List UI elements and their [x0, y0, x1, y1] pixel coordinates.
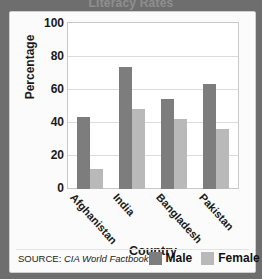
bar-group-bangladesh	[161, 22, 187, 189]
chart-footer: SOURCE: CIA World Factbook Male Female	[10, 249, 255, 267]
source-note: SOURCE: CIA World Factbook	[18, 253, 149, 264]
legend-item-female: Female	[201, 251, 259, 265]
bar-bangladesh-female	[174, 119, 187, 189]
chart-legend: Male Female	[149, 251, 260, 265]
bar-bangladesh-male	[161, 99, 174, 189]
legend-label-female: Female	[218, 251, 259, 265]
x-axis-ticks: Afghanistan India Bangladesh Pakistan	[67, 191, 239, 247]
source-name: CIA World Factbook	[64, 253, 149, 264]
y-tick-80: 80	[30, 49, 64, 63]
bar-pakistan-female	[216, 129, 229, 189]
legend-swatch-male	[149, 252, 162, 265]
y-axis-ticks: 100 80 60 40 20 0	[24, 22, 64, 189]
bar-india-male	[119, 67, 132, 189]
plot-wrapper	[67, 22, 239, 189]
bar-group-pakistan	[203, 22, 229, 189]
bar-group-afghanistan	[77, 22, 103, 189]
chart-card: Percentage 100 80 60 40 20 0	[9, 11, 256, 273]
bar-pakistan-male	[203, 84, 216, 189]
y-tick-20: 20	[30, 148, 64, 162]
x-tick-india: India	[111, 191, 137, 218]
y-tick-0: 0	[30, 181, 64, 195]
y-tick-40: 40	[30, 115, 64, 129]
bar-afghanistan-male	[77, 117, 90, 189]
chart-figure: Literacy Rates Percentage 100 80 60 40 2…	[0, 0, 262, 279]
legend-swatch-female	[201, 252, 214, 265]
y-tick-100: 100	[30, 16, 64, 30]
bar-india-female	[132, 109, 145, 189]
x-tick-pakistan: Pakistan	[197, 191, 236, 233]
y-tick-60: 60	[30, 82, 64, 96]
bar-groups	[67, 22, 239, 189]
bar-group-india	[119, 22, 145, 189]
bar-afghanistan-female	[90, 169, 103, 189]
chart-title: Literacy Rates	[0, 0, 262, 10]
source-prefix: SOURCE:	[18, 253, 61, 264]
legend-item-male: Male	[149, 251, 193, 265]
legend-label-male: Male	[166, 251, 193, 265]
